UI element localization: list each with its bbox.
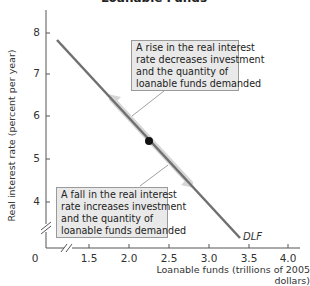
x-tick-label: 2.5 bbox=[154, 252, 184, 264]
y-tick-label: 7 bbox=[24, 67, 40, 79]
y-tick-label: 4 bbox=[24, 195, 40, 207]
x-tick-label: 4.0 bbox=[273, 252, 303, 264]
annotation-line: loanable funds demanded bbox=[136, 78, 234, 90]
annotation-line: A rise in the real interest bbox=[136, 42, 234, 54]
annotation-line: and the quantity of bbox=[61, 213, 163, 225]
y-ticks bbox=[46, 33, 50, 202]
x-tick-label: 2.0 bbox=[114, 252, 144, 264]
equilibrium-point bbox=[145, 137, 153, 145]
annotation-line: rate increases investment bbox=[61, 201, 163, 213]
y-tick-label: 5 bbox=[24, 152, 40, 164]
y-tick-label: 6 bbox=[24, 109, 40, 121]
annotation-line: rate decreases investment bbox=[136, 54, 234, 66]
x-tick-label: 3.0 bbox=[194, 252, 224, 264]
x-tick-label: 3.5 bbox=[234, 252, 264, 264]
y-tick-label: 8 bbox=[24, 26, 40, 38]
leader-line-rise bbox=[132, 91, 164, 116]
annotation-line: loanable funds demanded bbox=[61, 225, 163, 237]
x-tick-label: 1.5 bbox=[74, 252, 104, 264]
annotation-line: A fall in the real interest bbox=[61, 189, 163, 201]
leader-line-fall bbox=[140, 165, 168, 186]
annotation-line: and the quantity of bbox=[136, 66, 234, 78]
annotation-rise: A rise in the real interest rate decreas… bbox=[131, 40, 239, 91]
x-ticks bbox=[89, 244, 288, 248]
annotation-fall: A fall in the real interest rate increas… bbox=[56, 187, 168, 238]
x-tick-label: 0 bbox=[20, 252, 50, 264]
curve-label-dlf: DLF bbox=[243, 231, 262, 242]
